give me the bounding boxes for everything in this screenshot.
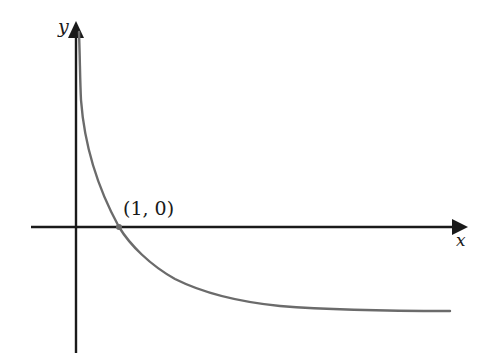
x-axis bbox=[31, 219, 468, 235]
function-curve bbox=[79, 32, 450, 311]
y-axis bbox=[68, 21, 84, 353]
point-label: (1, 0) bbox=[123, 197, 174, 219]
intercept-point bbox=[116, 224, 122, 230]
y-axis-arrow-icon bbox=[68, 21, 84, 38]
x-axis-label: x bbox=[456, 230, 466, 250]
y-axis-label: y bbox=[57, 15, 69, 37]
graph-canvas: y x (1, 0) bbox=[0, 0, 478, 361]
